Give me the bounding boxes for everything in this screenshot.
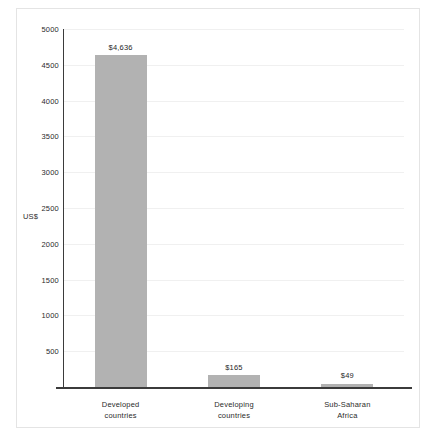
y-tick-label: 4000 xyxy=(19,96,59,105)
bar-value-label: $49 xyxy=(302,371,392,380)
plot-area xyxy=(64,29,404,387)
y-tick-label: 5000 xyxy=(19,25,59,34)
y-tick-label: 2500 xyxy=(19,204,59,213)
bar[interactable] xyxy=(208,375,260,387)
bar[interactable] xyxy=(95,55,147,387)
y-tick-label: 4500 xyxy=(19,60,59,69)
category-label-line: Developed xyxy=(66,399,176,410)
category-label-line: Sub-Saharan xyxy=(292,399,402,410)
y-tick-label: 3000 xyxy=(19,168,59,177)
y-axis-tick-labels: 500045004000350030002500200015001000500 xyxy=(17,29,59,387)
bar-value-label: $165 xyxy=(189,363,279,372)
bar-value-label: $4,636 xyxy=(76,43,166,52)
chart-card: US$ 500045004000350030002500200015001000… xyxy=(16,8,420,428)
category-label-line: Developing xyxy=(179,399,289,410)
gridline xyxy=(64,29,404,30)
y-tick-label: 500 xyxy=(19,347,59,356)
y-tick-label: 1500 xyxy=(19,275,59,284)
y-tick-label: 3500 xyxy=(19,132,59,141)
category-label-line: countries xyxy=(179,410,289,421)
x-axis-line xyxy=(56,387,412,389)
category-label: Developingcountries xyxy=(179,399,289,421)
y-tick-label: 2000 xyxy=(19,239,59,248)
category-label-line: countries xyxy=(66,410,176,421)
category-label: Sub-SaharanAfrica xyxy=(292,399,402,421)
y-tick-label: 1000 xyxy=(19,311,59,320)
category-label-line: Africa xyxy=(292,410,402,421)
category-label: Developedcountries xyxy=(66,399,176,421)
